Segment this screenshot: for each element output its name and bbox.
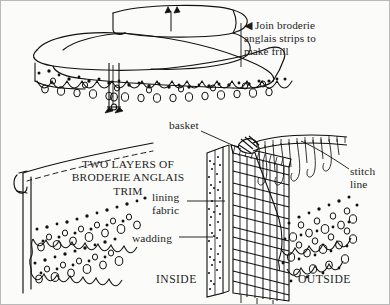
label-lining-fabric: lining fabric (152, 191, 206, 218)
leader-basket (201, 131, 241, 149)
wadding-stipple-layer (207, 147, 223, 297)
label-join-instruction: ◀ Join broderie anglais strips to make f… (244, 19, 386, 59)
gathered-knot (238, 136, 259, 153)
diagram-figure: ◀ Join broderie anglais strips to make f… (0, 0, 390, 305)
label-stitch-line: stitch line (350, 165, 390, 192)
eyelet-dots-top (38, 69, 287, 88)
trim-scallop-upper (30, 239, 137, 286)
broderie-anglais-strip-top (63, 5, 250, 69)
eyelet-dots-right (282, 196, 359, 283)
trim-dots-left (34, 196, 147, 274)
label-outside: OUTSIDE (298, 273, 351, 287)
eyelet-rings-right (287, 208, 356, 277)
leader-stitch (301, 141, 349, 169)
label-wadding: wadding (132, 232, 194, 245)
label-basket: basket (169, 119, 221, 132)
lining-fabric-layer (223, 145, 229, 293)
label-inside: INSIDE (156, 273, 197, 287)
